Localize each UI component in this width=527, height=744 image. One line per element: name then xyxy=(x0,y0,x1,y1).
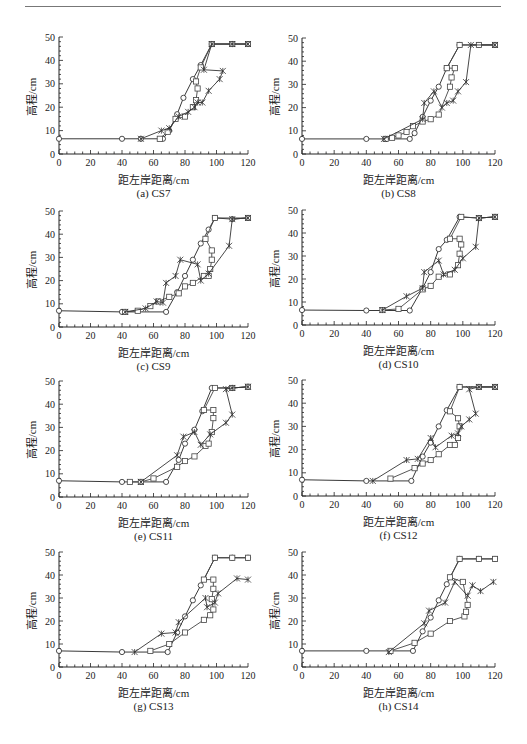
diamond-marker xyxy=(56,308,61,313)
square-marker xyxy=(127,479,132,484)
diamond-marker xyxy=(182,614,187,619)
y-tick-label: 20 xyxy=(288,444,298,455)
square-marker xyxy=(436,274,441,279)
x-tick-label: 20 xyxy=(329,157,339,168)
star-marker xyxy=(432,444,438,450)
star-marker xyxy=(421,100,427,106)
star-marker xyxy=(191,429,197,435)
diamond-marker xyxy=(407,136,412,141)
x-tick-label: 0 xyxy=(57,670,62,681)
x-tick-label: 80 xyxy=(426,499,436,510)
square-marker xyxy=(457,384,462,389)
square-marker xyxy=(455,416,460,421)
x-tick-label: 100 xyxy=(455,499,470,510)
star-marker xyxy=(455,88,461,94)
x-tick-label: 40 xyxy=(117,157,127,168)
square-marker xyxy=(245,41,250,46)
diamond-marker xyxy=(476,42,481,47)
square-marker xyxy=(198,65,203,70)
y-tick-label: 30 xyxy=(45,422,55,433)
chart-panel-3: 02040608010012001020304050 xyxy=(0,0,527,744)
y-tick-label: 30 xyxy=(288,593,298,604)
series-diamond-line xyxy=(59,558,248,652)
diamond-marker xyxy=(457,214,462,219)
star-marker xyxy=(160,300,166,306)
diamond-marker xyxy=(492,214,497,219)
square-marker xyxy=(380,307,385,312)
square-marker xyxy=(201,577,206,582)
star-marker xyxy=(473,244,479,250)
x-axis-label: 距左岸距离/cm xyxy=(59,344,249,360)
y-tick-label: 10 xyxy=(45,468,55,479)
square-marker xyxy=(396,133,401,138)
diamond-marker xyxy=(444,66,449,71)
x-tick-label: 100 xyxy=(455,328,470,339)
series-star-line xyxy=(141,387,248,482)
star-marker xyxy=(185,109,191,115)
diamond-marker xyxy=(164,309,169,314)
star-marker xyxy=(492,42,498,48)
star-marker xyxy=(198,278,204,284)
square-marker xyxy=(245,384,250,389)
square-marker xyxy=(492,556,497,561)
axes xyxy=(302,552,495,667)
x-tick-label: 120 xyxy=(488,157,503,168)
y-tick-label: 20 xyxy=(45,445,55,456)
diamond-marker xyxy=(245,215,250,220)
star-marker xyxy=(404,293,410,299)
y-axis-label: 高程/cm xyxy=(23,581,39,641)
star-marker xyxy=(458,423,464,429)
axes xyxy=(302,38,495,154)
diamond-marker xyxy=(428,440,433,445)
square-marker xyxy=(193,98,198,103)
chart-panel-2: 02040608010012001020304050 xyxy=(0,0,527,744)
y-tick-label: 20 xyxy=(45,275,55,286)
square-marker xyxy=(211,607,216,612)
x-tick-label: 60 xyxy=(394,499,404,510)
x-tick-label: 40 xyxy=(117,500,127,511)
diamond-marker xyxy=(420,114,425,119)
diamond-marker xyxy=(119,309,124,314)
y-tick-label: 30 xyxy=(288,79,298,90)
y-tick-label: 20 xyxy=(288,274,298,285)
star-marker xyxy=(229,412,235,418)
square-marker xyxy=(428,631,433,636)
y-tick-label: 0 xyxy=(50,492,55,503)
axes xyxy=(59,552,248,667)
x-tick-label: 40 xyxy=(361,499,371,510)
square-marker xyxy=(428,117,433,122)
square-marker xyxy=(173,116,178,121)
header-rule xyxy=(25,6,501,7)
square-marker xyxy=(452,442,457,447)
y-tick-label: 0 xyxy=(293,320,298,331)
y-tick-label: 50 xyxy=(45,32,55,43)
square-marker xyxy=(476,556,481,561)
square-marker xyxy=(492,42,497,47)
x-tick-label: 40 xyxy=(117,670,127,681)
diamond-marker xyxy=(245,555,250,560)
y-tick-label: 10 xyxy=(288,297,298,308)
y-tick-label: 30 xyxy=(45,252,55,263)
square-marker xyxy=(176,291,181,296)
square-marker xyxy=(190,105,195,110)
y-tick-label: 50 xyxy=(288,547,298,558)
square-marker xyxy=(151,476,156,481)
square-marker xyxy=(123,309,128,314)
x-tick-label: 60 xyxy=(149,670,159,681)
x-tick-label: 0 xyxy=(300,328,305,339)
x-tick-label: 60 xyxy=(149,157,159,168)
y-axis-label: 高程/cm xyxy=(23,240,39,300)
chart-panel-4: 02040608010012001020304050 xyxy=(0,0,527,744)
square-marker xyxy=(396,306,401,311)
y-axis-label: 高程/cm xyxy=(266,581,282,641)
y-tick-label: 20 xyxy=(288,616,298,627)
square-marker xyxy=(209,41,214,46)
x-axis-label: 距左岸距离/cm xyxy=(59,171,249,187)
chart-panel-8: 02040608010012001020304050 xyxy=(0,0,527,744)
y-tick-label: 0 xyxy=(293,491,298,502)
star-marker xyxy=(492,214,498,220)
square-marker xyxy=(230,41,235,46)
x-tick-label: 40 xyxy=(117,330,127,341)
y-tick-label: 0 xyxy=(293,149,298,160)
y-tick-label: 40 xyxy=(45,55,55,66)
